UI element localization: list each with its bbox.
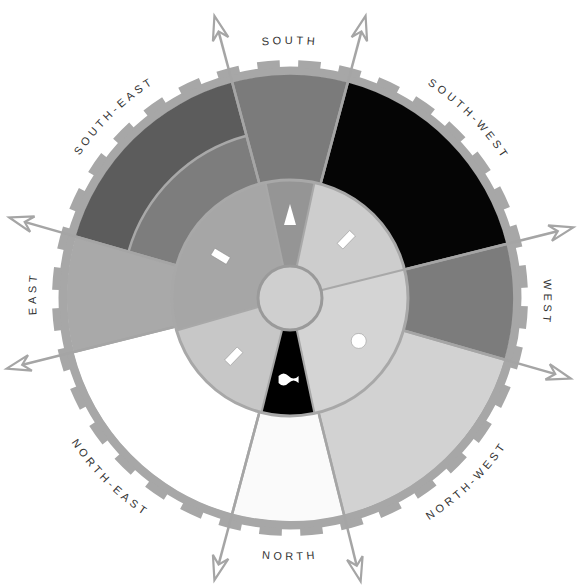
circle-symbol-icon bbox=[351, 333, 366, 348]
direction-label-text: SOUTH bbox=[261, 34, 319, 47]
center-hub bbox=[258, 266, 322, 330]
direction-label-text: WEST bbox=[541, 279, 554, 326]
bagua-compass-diagram: SOUTHSOUTH-WESTWESTNORTH-WESTNORTHNORTH-… bbox=[0, 0, 587, 586]
direction-label-text: EAST bbox=[26, 271, 39, 315]
direction-label-east: EAST bbox=[26, 271, 39, 315]
direction-label-text: NORTH bbox=[262, 549, 319, 562]
direction-label-west: WEST bbox=[541, 279, 554, 326]
hub-circle bbox=[258, 266, 322, 330]
direction-label-north: NORTH bbox=[262, 549, 319, 562]
direction-label-south: SOUTH bbox=[261, 34, 319, 47]
